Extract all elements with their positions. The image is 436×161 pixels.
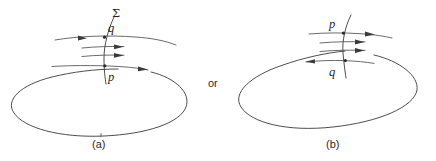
- flow-arrowhead-b-4: [306, 59, 316, 63]
- point-marker-p-a: [103, 64, 106, 67]
- panel-a-graphics: [11, 17, 187, 137]
- hypersurface-curve-b: [343, 15, 351, 78]
- flow-arrowhead-b-1: [365, 32, 375, 37]
- panel-b-graphics: [239, 15, 417, 128]
- point-label-q-b: q: [329, 66, 335, 79]
- surface-ellipse-a: [11, 69, 187, 136]
- flow-arrowhead-a-4: [138, 67, 148, 72]
- point-label-q-a: q: [108, 22, 114, 35]
- caption-panel-b: (b): [326, 139, 339, 150]
- surface-ellipse-b: [239, 51, 417, 128]
- point-marker-p-b: [342, 31, 345, 34]
- caption-panel-a: (a): [92, 139, 105, 150]
- point-label-p-b: p: [329, 18, 335, 31]
- figure-container: Σ q p (a) or p q (b): [0, 0, 436, 161]
- connector-or-label: or: [208, 78, 218, 89]
- figure-drawing: [0, 0, 436, 161]
- flow-line-b-1: [309, 33, 392, 38]
- flow-arrowhead-a-2: [114, 44, 124, 49]
- flow-arrowhead-a-3: [114, 53, 124, 58]
- flow-arrowhead-a-1: [78, 36, 87, 41]
- point-marker-q-a: [103, 36, 106, 39]
- hypersurface-label-sigma-a: Σ: [112, 8, 120, 20]
- point-marker-q-b: [344, 59, 347, 62]
- point-label-p-a: p: [108, 71, 114, 84]
- flow-arrowhead-b-3: [355, 48, 365, 53]
- flow-line-a-1: [55, 36, 176, 45]
- flow-arrowhead-b-2: [355, 40, 365, 45]
- flow-line-b-4: [306, 60, 374, 63]
